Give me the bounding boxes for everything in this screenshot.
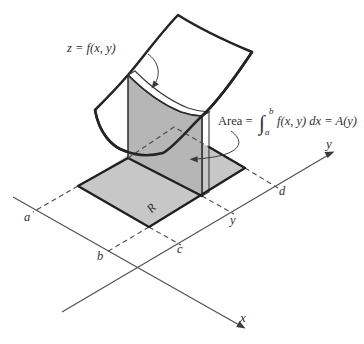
projection-b	[105, 227, 149, 253]
tick-label-b: b	[97, 249, 103, 263]
y-axis-label: y	[324, 136, 332, 151]
integral-upper-limit: b	[269, 106, 274, 116]
area-formula-label: Area = ∫ b a f(x, y) dx = A(y)	[218, 106, 357, 137]
tick-label-c: c	[177, 242, 183, 256]
tick-label-d: d	[279, 184, 286, 198]
x-axis-label: x	[239, 310, 246, 325]
y-axis-arrowhead-icon	[325, 152, 335, 159]
surface-label-arrow	[148, 54, 159, 89]
calculus-cross-section-figure: z = f(x, y) Area = ∫ b a f(x, y) dx = A(…	[0, 0, 364, 344]
tick-label-y: y	[228, 213, 236, 227]
area-formula-prefix: Area =	[218, 114, 252, 128]
figure-canvas: z = f(x, y) Area = ∫ b a f(x, y) dx = A(…	[0, 0, 364, 344]
integral-lower-limit: a	[265, 127, 270, 137]
projection-a	[33, 186, 78, 212]
surface-arrowhead-icon	[152, 81, 160, 89]
x-axis-line	[13, 197, 241, 326]
surface-equation-label: z = f(x, y)	[66, 41, 116, 55]
tick-label-a: a	[24, 210, 30, 224]
projection-y	[202, 196, 234, 214]
area-formula-suffix: f(x, y) dx = A(y)	[277, 114, 357, 128]
projection-d	[245, 168, 278, 188]
